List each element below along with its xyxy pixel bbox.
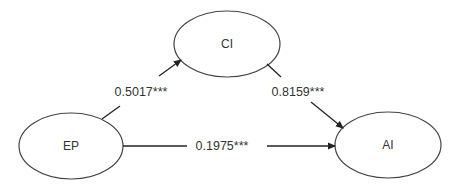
path-diagram: CI EP AI 0.5017*** 0.8159*** 0.1975*** — [0, 0, 456, 188]
node-ai: AI — [335, 112, 441, 178]
edge-ci-ai-tail — [267, 64, 281, 77]
edge-ep-ai-label: 0.1975*** — [196, 139, 249, 153]
edge-ep-ci: 0.5017*** — [102, 60, 181, 119]
node-ci-label: CI — [221, 37, 233, 51]
node-ai-label: AI — [382, 138, 393, 152]
node-ci: CI — [174, 11, 280, 77]
node-ep: EP — [19, 113, 123, 179]
edge-ep-ai: 0.1975*** — [123, 139, 335, 153]
edge-ep-ci-tail — [102, 106, 120, 119]
arrow-icon — [311, 102, 343, 128]
edge-ci-ai-label: 0.8159*** — [272, 85, 325, 99]
edge-ci-ai: 0.8159*** — [267, 64, 343, 128]
node-ep-label: EP — [63, 139, 79, 153]
edge-ep-ci-label: 0.5017*** — [115, 85, 168, 99]
arrow-icon — [159, 60, 181, 76]
